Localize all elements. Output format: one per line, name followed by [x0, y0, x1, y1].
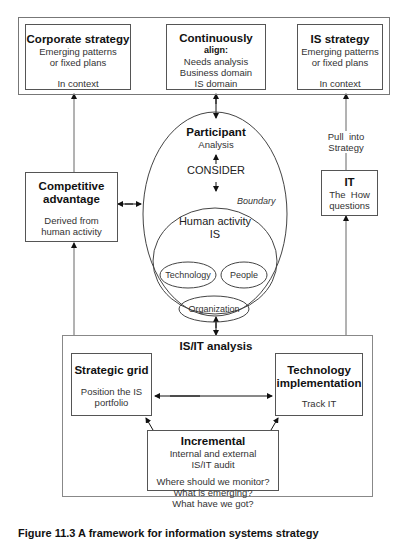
- people-label: People: [221, 270, 267, 280]
- it-line1: The How: [322, 189, 377, 200]
- is-strategy-line2: or fixed plans: [298, 57, 382, 68]
- it-title: IT: [322, 176, 377, 189]
- isit-analysis-title: IS/IT analysis: [160, 340, 272, 353]
- techimpl-line1: Track IT: [276, 398, 362, 409]
- strategic-grid-title: Strategic grid: [72, 364, 151, 377]
- incremental-line3: Where should we monitor?: [148, 476, 278, 487]
- competitive-advantage-title-2: advantage: [26, 193, 117, 206]
- continuously-align-box: Continuously align: Needs analysis Busin…: [166, 24, 266, 90]
- participant-title: Participant: [160, 126, 272, 139]
- continuously-align-line1: Needs analysis: [167, 56, 265, 67]
- competitive-advantage-line2: human activity: [26, 226, 117, 237]
- incremental-box: Incremental Internal and external IS/IT …: [147, 430, 279, 491]
- corporate-strategy-line2: or fixed plans: [26, 57, 130, 68]
- competitive-advantage-line1: Derived from: [26, 215, 117, 226]
- continuously-align-subtitle: align:: [167, 45, 265, 56]
- participant-subtitle: Analysis: [160, 139, 272, 150]
- incremental-line4: What is emerging?: [148, 487, 278, 498]
- is-strategy-line3: In context: [298, 78, 382, 89]
- pull-line2: Strategy: [316, 142, 376, 153]
- boundary-label: Boundary: [237, 196, 276, 206]
- pull-into-strategy-label: Pull into Strategy: [316, 131, 376, 153]
- is-strategy-box: IS strategy Emerging patterns or fixed p…: [297, 24, 383, 90]
- technology-label: Technology: [160, 270, 216, 280]
- participant-label-group: Participant Analysis: [160, 126, 272, 150]
- incremental-line2: IS/IT audit: [148, 459, 278, 470]
- competitive-advantage-box: Competitive advantage Derived from human…: [25, 172, 118, 242]
- organization-label: Organization: [179, 304, 249, 314]
- it-box: IT The How questions: [321, 170, 378, 216]
- is-strategy-title: IS strategy: [298, 33, 382, 46]
- is-strategy-line1: Emerging patterns: [298, 46, 382, 57]
- pull-line1: Pull into: [316, 131, 376, 142]
- corporate-strategy-line3: In context: [26, 78, 130, 89]
- continuously-align-title: Continuously: [167, 32, 265, 45]
- strategic-grid-line2: portfolio: [72, 397, 151, 408]
- figure-caption: Figure 11.3 A framework for information …: [18, 527, 319, 539]
- incremental-title: Incremental: [148, 435, 278, 448]
- corporate-strategy-box: Corporate strategy Emerging patterns or …: [25, 24, 131, 90]
- human-activity-label: Human activity IS: [165, 215, 265, 241]
- continuously-align-line2: Business domain: [167, 67, 265, 78]
- isit-analysis-title-wrap: IS/IT analysis: [160, 340, 272, 353]
- corporate-strategy-line1: Emerging patterns: [26, 46, 130, 57]
- human-activity-line1: Human activity: [165, 215, 265, 228]
- technology-implementation-box: Technology implementation Track IT: [275, 353, 363, 416]
- incremental-line5: What have we got?: [148, 498, 278, 509]
- techimpl-title-2: implementation: [276, 377, 362, 390]
- strategic-grid-box: Strategic grid Position the IS portfolio: [71, 353, 152, 416]
- corporate-strategy-title: Corporate strategy: [26, 33, 130, 46]
- continuously-align-line3: IS domain: [167, 78, 265, 89]
- techimpl-title-1: Technology: [276, 364, 362, 377]
- consider-label: CONSIDER: [166, 164, 266, 176]
- incremental-line1: Internal and external: [148, 448, 278, 459]
- strategic-grid-line1: Position the IS: [72, 386, 151, 397]
- competitive-advantage-title-1: Competitive: [26, 180, 117, 193]
- human-activity-line2: IS: [165, 228, 265, 241]
- it-line2: questions: [322, 200, 377, 211]
